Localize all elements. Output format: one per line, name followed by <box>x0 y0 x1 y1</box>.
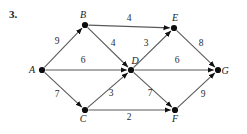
figure-canvas: 3. 967443236789 ABCDEFG <box>0 0 247 134</box>
graph-node-E <box>171 25 177 31</box>
graph-node-label-D: D <box>130 55 139 66</box>
graph-node-label-G: G <box>221 65 228 76</box>
graph-node-label-B: B <box>80 9 86 20</box>
edge-weight-C-D: 3 <box>109 88 114 98</box>
graph-node-label-C: C <box>80 113 87 124</box>
graph-edge-E-G <box>177 30 215 67</box>
edge-weight-D-E: 3 <box>144 38 149 48</box>
edge-weight-B-D: 4 <box>111 38 116 48</box>
graph-edge-D-F <box>134 72 172 107</box>
graph-node-D <box>128 67 134 73</box>
edge-weight-E-G: 8 <box>199 38 204 48</box>
edge-weight-B-E: 4 <box>127 13 132 23</box>
graph-edge-D-E <box>134 31 171 68</box>
edge-weight-A-C: 7 <box>55 89 60 99</box>
edge-weight-D-F: 7 <box>148 88 153 98</box>
graph-node-A <box>39 67 45 73</box>
edge-weight-C-F: 2 <box>127 112 132 122</box>
graph-edge-F-G <box>178 73 215 108</box>
edge-weight-F-G: 9 <box>201 89 206 99</box>
graph-diagram: 967443236789 ABCDEFG <box>0 0 247 134</box>
graph-edge-B-D <box>88 27 128 67</box>
graph-edge-A-B <box>44 28 82 67</box>
graph-node-label-F: F <box>171 113 179 124</box>
graph-node-B <box>82 22 88 28</box>
graph-edge-B-E <box>88 25 169 28</box>
graph-edge-A-C <box>45 72 82 107</box>
edge-weight-D-G: 6 <box>175 55 180 65</box>
graph-node-label-E: E <box>171 12 178 23</box>
edge-weight-A-B: 9 <box>55 36 60 46</box>
edge-weight-A-D: 6 <box>81 55 86 65</box>
graph-node-label-A: A <box>28 64 36 75</box>
graph-node-G <box>215 67 221 73</box>
